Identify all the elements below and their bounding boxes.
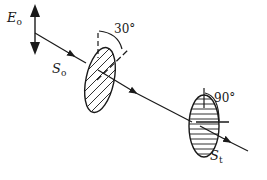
label-st: St <box>210 148 223 165</box>
polarizer-diagram: Eo So 30° <box>0 0 267 180</box>
label-angle-30: 30° <box>114 22 135 36</box>
field-vector-e0 <box>30 4 40 55</box>
arrow-up-icon <box>30 4 40 17</box>
label-s0: So <box>52 61 66 78</box>
light-beam <box>35 33 86 63</box>
label-e0: Eo <box>6 10 22 27</box>
label-angle-90: 90° <box>214 91 235 105</box>
polarizer-30 <box>70 22 128 133</box>
arrow-down-icon <box>30 42 40 55</box>
